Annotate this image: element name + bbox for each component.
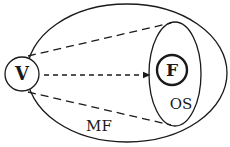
node-v-label: V bbox=[14, 63, 30, 84]
diagram-canvas: V F OS MF bbox=[0, 0, 230, 147]
mf-region-ellipse bbox=[27, 4, 227, 142]
mf-region-label: MF bbox=[86, 117, 112, 135]
node-f-label: F bbox=[166, 60, 178, 80]
os-region-label: OS bbox=[170, 95, 193, 113]
dashed-line-to-os-top bbox=[28, 23, 171, 56]
